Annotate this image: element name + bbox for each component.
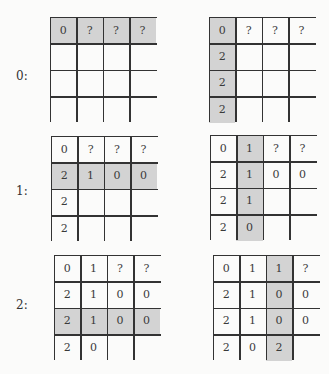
table-cell [129, 70, 155, 96]
step-label-0: 0: [16, 69, 28, 83]
table-cell: 2 [54, 334, 80, 360]
table-cell: 0 [51, 136, 77, 162]
table-cell: 0 [54, 255, 80, 281]
table-cell: 1 [236, 188, 262, 214]
table-cell: 0 [107, 281, 133, 307]
table-cell [76, 96, 102, 122]
table-cell: 2 [213, 308, 239, 334]
table-cell: 1 [236, 161, 262, 187]
table-cell [50, 96, 76, 122]
grid-step1-col-fill: 01??21002120 [210, 135, 316, 241]
table-cell: 1 [77, 162, 103, 188]
table-cell: ? [77, 136, 103, 162]
table-cell [288, 96, 314, 122]
grid-vline [130, 136, 131, 241]
grid-vline [289, 135, 290, 240]
grid-step1-row-fill: 0???210022 [51, 136, 157, 242]
table-cell: 2 [209, 43, 235, 69]
table-cell [129, 43, 155, 69]
table-cell [288, 43, 314, 69]
table-cell: ? [263, 135, 289, 161]
grid-vline [235, 17, 236, 122]
table-cell [77, 189, 103, 215]
grid-vline [104, 136, 105, 241]
grid-vline [129, 17, 130, 122]
table-cell [235, 70, 261, 96]
grid-vline [210, 135, 211, 240]
table-cell [262, 43, 288, 69]
table-cell [77, 215, 103, 241]
table-cell: 0 [213, 255, 239, 281]
grid-vline [103, 17, 104, 122]
grid-vline [263, 135, 264, 240]
table-cell [76, 70, 102, 96]
table-cell [289, 214, 315, 240]
table-cell: ? [133, 255, 159, 281]
table-cell [130, 215, 156, 241]
table-cell: 0 [292, 308, 318, 334]
grid-vline [266, 255, 267, 360]
table-cell [262, 96, 288, 122]
table-cell [104, 215, 130, 241]
grid-step0-row-fill: 0??? [50, 17, 156, 123]
grid-step0-col-fill: 0???222 [209, 17, 315, 123]
table-cell [262, 70, 288, 96]
table-cell: 1 [239, 255, 265, 281]
table-cell: 0 [266, 308, 292, 334]
table-cell: 1 [239, 308, 265, 334]
table-cell [130, 189, 156, 215]
table-cell: ? [76, 17, 102, 43]
table-cell: ? [104, 136, 130, 162]
table-cell: 2 [54, 281, 80, 307]
table-cell: 2 [209, 70, 235, 96]
table-cell: 0 [130, 162, 156, 188]
table-cell: 2 [51, 162, 77, 188]
table-cell: 2 [51, 189, 77, 215]
grid-vline [51, 136, 52, 241]
table-cell: 2 [210, 161, 236, 187]
table-cell: ? [130, 136, 156, 162]
table-cell: 1 [80, 308, 106, 334]
table-cell [76, 43, 102, 69]
grid-vline [213, 255, 214, 360]
table-cell [104, 189, 130, 215]
table-cell: 1 [239, 281, 265, 307]
table-cell: 2 [266, 334, 292, 360]
table-cell: 0 [210, 135, 236, 161]
table-cell: 0 [50, 17, 76, 43]
table-cell: 0 [133, 281, 159, 307]
table-cell [103, 96, 129, 122]
table-cell: ? [289, 135, 315, 161]
grid-vline [50, 17, 51, 122]
table-cell: ? [292, 255, 318, 281]
table-cell [103, 70, 129, 96]
table-cell [235, 96, 261, 122]
table-cell: ? [107, 255, 133, 281]
grid-vline [80, 255, 81, 360]
table-cell: 0 [80, 334, 106, 360]
table-cell: 0 [292, 281, 318, 307]
grid-vline [292, 255, 293, 360]
table-cell [288, 70, 314, 96]
grid-vline [209, 17, 210, 122]
table-cell: 2 [210, 188, 236, 214]
table-cell: ? [288, 17, 314, 43]
table-cell [292, 334, 318, 360]
table-cell [129, 96, 155, 122]
grid-vline [236, 135, 237, 240]
grid-vline [239, 255, 240, 360]
table-cell [263, 188, 289, 214]
table-cell: 1 [80, 255, 106, 281]
table-cell: 0 [104, 162, 130, 188]
table-cell: ? [262, 17, 288, 43]
table-cell [103, 43, 129, 69]
grid-vline [77, 136, 78, 241]
step-label-1: 1: [16, 184, 28, 198]
table-cell [50, 70, 76, 96]
table-cell [235, 43, 261, 69]
table-cell: 0 [209, 17, 235, 43]
grid-vline [76, 17, 77, 122]
table-cell: 2 [213, 281, 239, 307]
table-cell: 0 [236, 214, 262, 240]
grid-vline [107, 255, 108, 360]
